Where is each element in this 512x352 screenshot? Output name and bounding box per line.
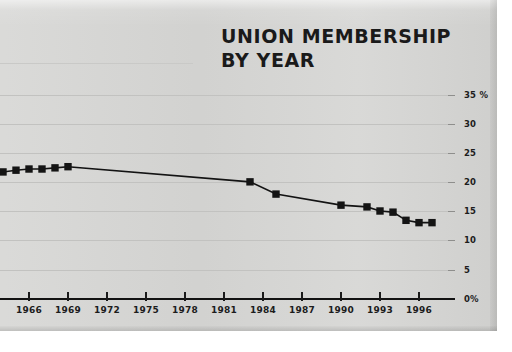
series-data-point bbox=[38, 165, 45, 172]
series-data-point bbox=[428, 219, 435, 226]
series-data-point bbox=[25, 165, 32, 172]
panel-edge-right bbox=[490, 0, 497, 331]
series-data-point bbox=[12, 166, 19, 173]
panel-edge-bottom bbox=[0, 326, 497, 331]
series-data-point bbox=[0, 168, 7, 175]
series-line-union-membership bbox=[3, 167, 432, 223]
series-data-point bbox=[402, 217, 409, 224]
series-svg bbox=[0, 0, 497, 331]
series-data-point bbox=[51, 164, 58, 171]
chart-page: UNION MEMBERSHIP BY YEAR 35 % 30 25 20 bbox=[0, 0, 512, 352]
chart-panel: UNION MEMBERSHIP BY YEAR 35 % 30 25 20 bbox=[0, 0, 497, 331]
series-data-point bbox=[337, 201, 344, 208]
series-data-point bbox=[363, 203, 370, 210]
series-data-point bbox=[272, 190, 279, 197]
series-data-point bbox=[415, 219, 422, 226]
series-data-point bbox=[246, 178, 253, 185]
series-data-point bbox=[64, 163, 71, 170]
series-markers-group bbox=[0, 163, 436, 226]
series-data-point bbox=[389, 208, 396, 215]
series-data-point bbox=[376, 207, 383, 214]
